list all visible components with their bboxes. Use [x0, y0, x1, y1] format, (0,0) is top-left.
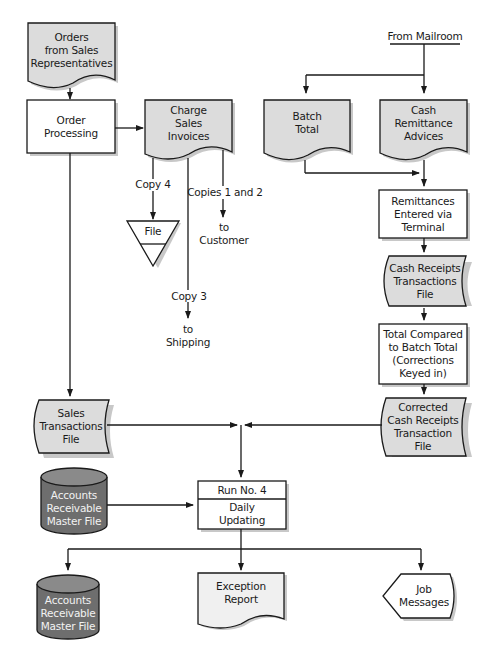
cash-remittance-advices-label: Cash Remittance Advices [380, 101, 467, 145]
ar-master-file-output-label: Accounts Receivable Master File [37, 591, 99, 635]
daily-updating-label: Daily Updating [198, 499, 286, 529]
file-label: File [127, 225, 179, 238]
ar-master-file-input-label: Accounts Receivable Master File [41, 486, 107, 530]
sales-transactions-file-label: Sales Transactions File [33, 400, 109, 453]
total-compared-label: Total Compared to Batch Total (Correctio… [379, 324, 467, 384]
copy-4-label: Copy 4 [127, 178, 179, 191]
copies-1-and-2-label: Copies 1 and 2 [185, 186, 265, 199]
from-mailroom-label: From Mailroom [382, 30, 468, 43]
corrected-cash-receipts-file-label: Corrected Cash Receipts Transaction File [380, 398, 466, 456]
order-processing-label: Order Processing [27, 100, 115, 153]
flowchart-canvas: Orders from Sales Representatives Order … [0, 0, 489, 657]
cash-receipts-file-label: Cash Receipts Transactions File [383, 256, 467, 306]
to-shipping-label: to Shipping [160, 323, 216, 349]
charge-sales-invoices-label: Charge Sales Invoices [145, 101, 232, 145]
remittances-entered-label: Remittances Entered via Terminal [379, 190, 467, 238]
orders-from-sales-reps-label: Orders from Sales Representatives [28, 24, 115, 76]
run-no-4-label: Run No. 4 [198, 481, 286, 499]
exception-report-label: Exception Report [198, 576, 284, 610]
batch-total-label: Batch Total [264, 101, 350, 145]
to-customer-label: to Customer [198, 221, 250, 247]
job-messages-label: Job Messages [393, 574, 455, 618]
copy-3-label: Copy 3 [163, 290, 215, 303]
